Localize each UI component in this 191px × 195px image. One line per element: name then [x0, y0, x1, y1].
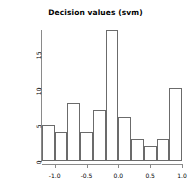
histogram-bar [157, 139, 170, 161]
x-axis-tick-label: 1.0 [170, 172, 191, 179]
x-axis-tick-label: 0.5 [138, 172, 162, 179]
histogram-bar [169, 88, 182, 161]
x-axis-tick-label: -1.0 [43, 172, 67, 179]
histogram-bar [144, 146, 157, 161]
y-axis-tick-label: 0 [35, 161, 42, 175]
x-axis-tick-label: -0.5 [75, 172, 99, 179]
histogram-bar [67, 103, 80, 161]
histogram-bar [55, 132, 68, 161]
histogram-plot: Decision values (svm) Decision values 05… [0, 0, 191, 195]
histogram-bar [80, 132, 93, 161]
x-axis [42, 164, 182, 169]
histogram-bar [131, 139, 144, 161]
chart-title: Decision values (svm) [0, 8, 191, 17]
histogram-bar [106, 30, 119, 161]
plot-panel [42, 30, 182, 161]
histogram-bar [118, 117, 131, 161]
x-axis-tick [118, 164, 119, 168]
y-axis-tick-label: 15 [35, 51, 42, 65]
x-axis-tick [150, 164, 151, 168]
histogram-bar [93, 110, 106, 161]
y-axis-tick-label: 5 [35, 124, 42, 138]
x-axis-tick-label: 0.0 [106, 172, 130, 179]
x-axis-tick [182, 164, 183, 168]
histogram-bars [42, 30, 182, 161]
x-axis-line [42, 164, 182, 165]
x-axis-tick [55, 164, 56, 168]
x-axis-tick [87, 164, 88, 168]
y-axis-tick-label: 10 [35, 88, 42, 102]
histogram-bar [42, 125, 55, 161]
